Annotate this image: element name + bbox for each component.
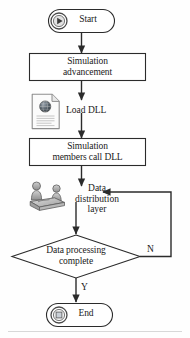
node-label-decision: Data processing complete [26, 245, 126, 266]
edge-label-yes: Y [81, 283, 88, 293]
node-label-simulation-advancement: Simulation advancement [30, 56, 145, 77]
edge-label-no: N [147, 245, 154, 255]
people-group-icon [27, 180, 67, 215]
flowchart-svg [0, 0, 190, 338]
page-rule [8, 331, 182, 332]
node-label-end: End [64, 308, 108, 319]
document-icon [31, 93, 61, 130]
node-label-load-dll: Load DLL [66, 105, 128, 116]
node-label-data-distribution-layer: Data distribution layer [66, 183, 128, 215]
node-label-members-call-dll: Simulation members call DLL [30, 141, 145, 162]
node-label-start: Start [66, 14, 110, 25]
flowchart-canvas: Start Simulation advancement Load DLL Si… [0, 0, 190, 338]
